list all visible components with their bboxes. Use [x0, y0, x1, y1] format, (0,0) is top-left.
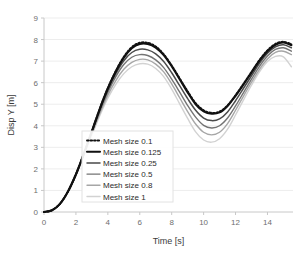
y-tick-label: 7	[34, 57, 39, 66]
x-axis-ticks: 02468101214	[42, 212, 273, 227]
y-axis-title: Disp Y [m]	[6, 94, 16, 135]
legend-label: Mesh size 0.1	[103, 137, 153, 146]
x-tick-label: 10	[199, 218, 208, 227]
y-tick-label: 3	[34, 143, 39, 152]
legend-label: Mesh size 0.5	[103, 170, 153, 179]
x-axis-title: Time [s]	[153, 236, 185, 246]
y-axis-ticks: 0123456789	[34, 14, 44, 217]
y-tick-label: 9	[34, 14, 39, 23]
legend-label: Mesh size 0.8	[103, 181, 153, 190]
legend: Mesh size 0.1Mesh size 0.125Mesh size 0.…	[82, 131, 173, 202]
x-tick-label: 8	[169, 218, 174, 227]
x-tick-label: 6	[138, 218, 143, 227]
y-tick-label: 5	[34, 100, 39, 109]
y-tick-label: 6	[34, 79, 39, 88]
x-tick-label: 12	[231, 218, 240, 227]
legend-label: Mesh size 0.125	[103, 148, 162, 157]
y-tick-label: 4	[34, 122, 39, 131]
y-tick-label: 0	[34, 208, 39, 217]
y-tick-label: 1	[34, 186, 39, 195]
legend-label: Mesh size 0.25	[103, 159, 157, 168]
y-tick-label: 2	[34, 165, 39, 174]
x-tick-label: 4	[106, 218, 111, 227]
line-chart-svg: 012345678902468101214Time [s]Disp Y [m]M…	[0, 0, 306, 255]
chart-container: 012345678902468101214Time [s]Disp Y [m]M…	[0, 0, 306, 255]
legend-label: Mesh size 1	[103, 193, 146, 202]
x-tick-label: 2	[74, 218, 79, 227]
y-tick-label: 8	[34, 36, 39, 45]
x-tick-label: 14	[263, 218, 272, 227]
x-tick-label: 0	[42, 218, 47, 227]
